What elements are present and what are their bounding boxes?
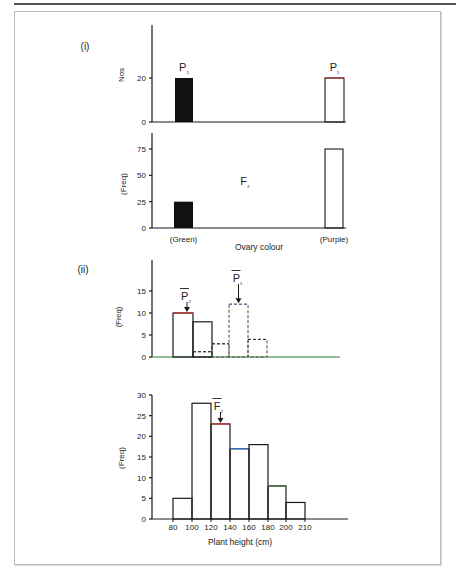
y-tick-label: 0 bbox=[142, 118, 147, 127]
part-label-ii: (ii) bbox=[77, 264, 88, 275]
p2-mean-arrow-head bbox=[184, 307, 190, 312]
x-tick-label: 120 bbox=[204, 523, 218, 532]
dashed-bar bbox=[229, 304, 248, 357]
y-axis-label-nos: Nos bbox=[117, 68, 126, 82]
y-tick-label: 50 bbox=[137, 171, 146, 180]
dashed-bar bbox=[212, 344, 229, 357]
y-tick-label: 25 bbox=[137, 198, 146, 207]
solid-bar bbox=[173, 313, 193, 357]
f2-mean-arrow-head bbox=[218, 418, 224, 423]
bar-label-0: P₂ bbox=[179, 61, 189, 74]
y-tick-label: 15 bbox=[137, 453, 146, 462]
x-tick-label: 180 bbox=[261, 523, 275, 532]
y-tick-label: 15 bbox=[137, 287, 146, 296]
histogram-bar bbox=[230, 449, 249, 519]
y-tick-label: 20 bbox=[137, 432, 146, 441]
x-tick-label: 210 bbox=[298, 523, 312, 532]
dashed-bar bbox=[248, 339, 267, 357]
x-tick-label: 200 bbox=[279, 523, 293, 532]
bar-label-1: P₁ bbox=[330, 61, 340, 74]
y-tick-label: 5 bbox=[142, 494, 147, 503]
bar-p2 bbox=[175, 78, 193, 122]
y-tick-label: 0 bbox=[142, 515, 147, 524]
y-tick-label: 10 bbox=[137, 474, 146, 483]
x-tick-label: 160 bbox=[242, 523, 256, 532]
category-label-1: (Purple) bbox=[320, 235, 349, 244]
bar-green bbox=[174, 202, 193, 228]
y-tick-label: 5 bbox=[142, 331, 147, 340]
x-axis-label-ovary: Ovary colour bbox=[235, 242, 283, 252]
y-tick-label: 10 bbox=[137, 309, 146, 318]
y-axis-label-freq: (Freq) bbox=[117, 447, 126, 469]
y-tick-label: 30 bbox=[137, 391, 146, 400]
histogram-bar bbox=[286, 502, 305, 519]
x-tick-label: 80 bbox=[169, 523, 178, 532]
y-tick-label: 25 bbox=[137, 412, 146, 421]
p1-mean-label: P₁ bbox=[233, 272, 243, 285]
y-axis-label-freq: (Freq) bbox=[114, 306, 123, 327]
histogram-bar bbox=[173, 498, 192, 519]
y-tick-label: 75 bbox=[137, 145, 146, 154]
x-tick-label: 100 bbox=[185, 523, 199, 532]
histogram-bar bbox=[249, 445, 268, 519]
x-axis-label-height: Plant height (cm) bbox=[208, 537, 272, 547]
bar-purple bbox=[325, 149, 343, 228]
y-tick-label: 20 bbox=[137, 74, 146, 83]
bar-p1 bbox=[325, 78, 344, 122]
histogram-bar bbox=[211, 424, 230, 519]
category-label-0: (Green) bbox=[170, 235, 198, 244]
p1-mean-arrow-head bbox=[236, 298, 242, 303]
y-tick-label: 0 bbox=[142, 224, 147, 233]
f2-mean-label: F₂ bbox=[214, 400, 224, 413]
y-axis-label-freq: (Freq) bbox=[119, 173, 128, 195]
histogram-bar bbox=[192, 403, 211, 519]
x-tick-label: 140 bbox=[223, 523, 237, 532]
part-label-i: (i) bbox=[81, 41, 90, 52]
p2-mean-label: P₂ bbox=[181, 290, 191, 303]
y-tick-label: 0 bbox=[142, 353, 147, 362]
f2-annotation: F₂ bbox=[240, 175, 250, 188]
dashed-bar bbox=[193, 352, 212, 357]
histogram-bar bbox=[268, 486, 286, 519]
figure-canvas: (i)(ii)020NosP₂P₁0255075(Freq)(Green)(Pu… bbox=[0, 0, 456, 576]
